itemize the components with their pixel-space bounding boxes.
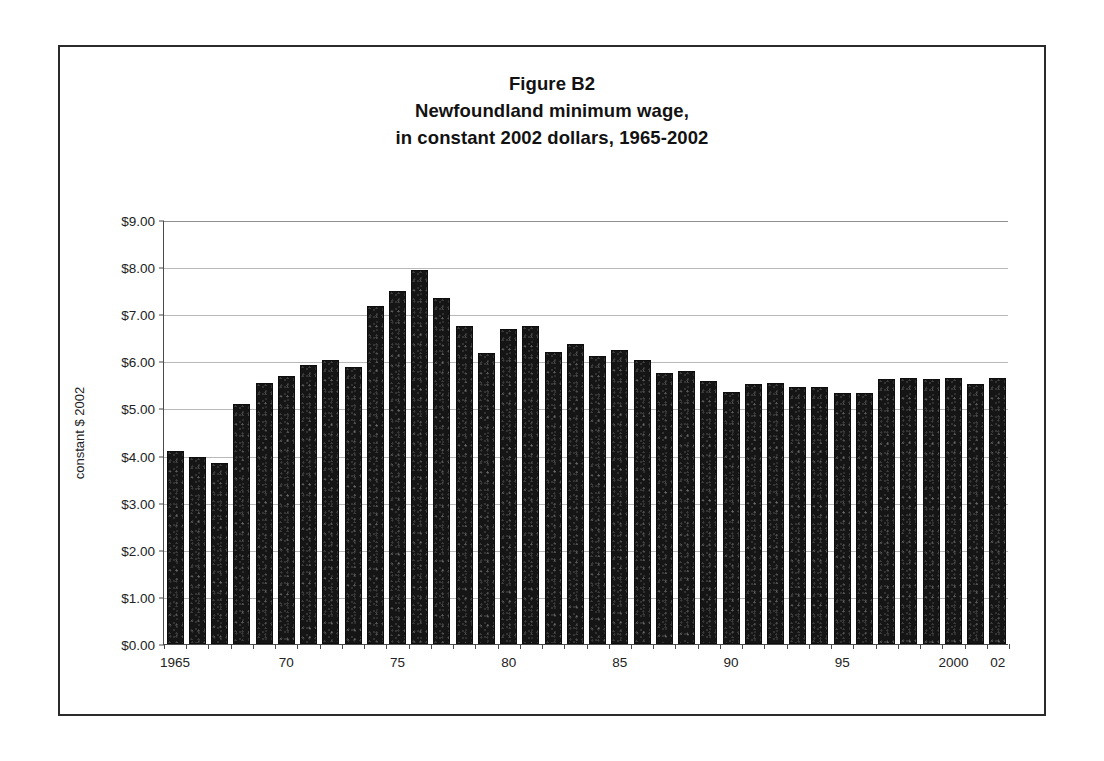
bar-chart: constant $ 2002 $0.00$1.00$2.00$3.00$4.0… (163, 221, 1008, 645)
x-tick-label: 75 (390, 655, 405, 670)
x-tick-mark (898, 644, 899, 649)
x-tick-label: 70 (279, 655, 294, 670)
title-line-3: in constant 2002 dollars, 1965-2002 (60, 125, 1044, 152)
bar (545, 352, 562, 644)
x-tick-mark (164, 644, 165, 649)
x-tick-mark (297, 644, 298, 649)
y-tick-label: $6.00 (121, 355, 155, 370)
bar (300, 365, 317, 644)
bar (811, 387, 828, 644)
x-tick-mark (453, 644, 454, 649)
x-tick-mark (386, 644, 387, 649)
x-tick-mark (208, 644, 209, 649)
x-tick-label: 85 (612, 655, 627, 670)
y-axis-title: constant $ 2002 (72, 387, 87, 480)
bar (834, 393, 851, 644)
x-tick-mark (186, 644, 187, 649)
x-tick-mark (787, 644, 788, 649)
x-tick-mark (587, 644, 588, 649)
bar (989, 378, 1006, 644)
x-tick-mark (542, 644, 543, 649)
y-tick-label: $0.00 (121, 638, 155, 653)
x-tick-mark (698, 644, 699, 649)
x-tick-mark (409, 644, 410, 649)
y-tick-label: $3.00 (121, 496, 155, 511)
bar (767, 383, 784, 644)
title-line-1: Figure B2 (60, 71, 1044, 98)
x-tick-mark (364, 644, 365, 649)
bar (278, 376, 295, 644)
bar (789, 387, 806, 644)
bar (700, 381, 717, 644)
bar (723, 392, 740, 644)
bar-series (164, 221, 1008, 644)
y-tick-label: $5.00 (121, 402, 155, 417)
bar (233, 404, 250, 644)
x-tick-label: 1965 (160, 655, 190, 670)
figure-page: Figure B2 Newfoundland minimum wage, in … (0, 0, 1104, 761)
figure-title: Figure B2 Newfoundland minimum wage, in … (60, 71, 1044, 151)
x-tick-mark (609, 644, 610, 649)
bar (256, 383, 273, 644)
y-tick-label: $4.00 (121, 449, 155, 464)
x-tick-label: 95 (835, 655, 850, 670)
x-tick-mark (520, 644, 521, 649)
y-tick-label: $8.00 (121, 261, 155, 276)
bar (500, 329, 517, 644)
bar (678, 371, 695, 644)
x-tick-mark (809, 644, 810, 649)
x-tick-mark (675, 644, 676, 649)
x-tick-mark (653, 644, 654, 649)
bar (589, 356, 606, 644)
x-tick-mark (564, 644, 565, 649)
bar (634, 360, 651, 644)
bar (322, 360, 339, 644)
y-tick-label: $7.00 (121, 308, 155, 323)
bar (567, 344, 584, 644)
x-tick-mark (876, 644, 877, 649)
bar (189, 457, 206, 644)
figure-frame: Figure B2 Newfoundland minimum wage, in … (58, 45, 1046, 716)
x-tick-mark (1009, 644, 1010, 649)
x-tick-label: 2000 (938, 655, 968, 670)
bar (345, 367, 362, 644)
x-tick-mark (831, 644, 832, 649)
x-tick-mark (720, 644, 721, 649)
bar (878, 379, 895, 644)
x-tick-mark (275, 644, 276, 649)
bar (967, 384, 984, 644)
y-tick-label: $1.00 (121, 590, 155, 605)
bar (211, 463, 228, 644)
bar (433, 298, 450, 644)
bar (456, 326, 473, 644)
x-tick-mark (742, 644, 743, 649)
x-tick-mark (320, 644, 321, 649)
x-tick-label: 90 (724, 655, 739, 670)
bar (900, 378, 917, 644)
bar (745, 384, 762, 644)
y-tick-label: $9.00 (121, 214, 155, 229)
x-tick-label: 80 (501, 655, 516, 670)
x-tick-mark (498, 644, 499, 649)
x-tick-mark (475, 644, 476, 649)
bar (411, 270, 428, 644)
bar (389, 291, 406, 644)
x-tick-mark (253, 644, 254, 649)
x-tick-mark (987, 644, 988, 649)
x-tick-mark (942, 644, 943, 649)
y-tick-label: $2.00 (121, 543, 155, 558)
bar (656, 373, 673, 644)
bar (611, 350, 628, 644)
title-line-2: Newfoundland minimum wage, (60, 98, 1044, 125)
bar (945, 378, 962, 644)
x-tick-mark (965, 644, 966, 649)
x-tick-mark (853, 644, 854, 649)
bar (856, 393, 873, 644)
bar (478, 353, 495, 644)
x-tick-mark (764, 644, 765, 649)
x-tick-mark (231, 644, 232, 649)
plot-area: $0.00$1.00$2.00$3.00$4.00$5.00$6.00$7.00… (163, 221, 1008, 645)
x-tick-mark (920, 644, 921, 649)
bar (167, 451, 184, 644)
x-tick-mark (342, 644, 343, 649)
